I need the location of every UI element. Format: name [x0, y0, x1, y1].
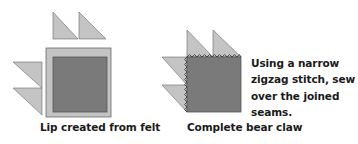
note-line-2: zigzag stitch, sew: [251, 71, 355, 87]
note-line-1: Using a narrow: [251, 55, 355, 71]
left-diagram-lip-from-felt: [13, 12, 111, 117]
left-claw-triangle-2: [162, 85, 187, 112]
top-claw-triangle-2: [79, 12, 106, 39]
right-diagram-complete-bear-claw: [162, 30, 241, 112]
caption-complete-bear-claw: Complete bear claw: [187, 121, 302, 133]
top-claw-triangle-1: [187, 30, 213, 57]
top-claw-triangle-1: [53, 12, 78, 39]
caption-lip-created-from-felt: Lip created from felt: [40, 121, 160, 133]
center-square: [53, 57, 107, 112]
note-line-3: over the joined: [251, 88, 355, 104]
note-line-4: seams.: [251, 104, 355, 120]
top-claw-triangle-2: [213, 30, 241, 57]
left-claw-triangle-1: [162, 57, 187, 85]
instruction-note: Using a narrow zigzag stitch, sew over t…: [251, 55, 355, 120]
center-square: [187, 57, 241, 112]
left-claw-triangle-1: [13, 62, 42, 88]
left-claw-triangle-2: [13, 88, 42, 115]
